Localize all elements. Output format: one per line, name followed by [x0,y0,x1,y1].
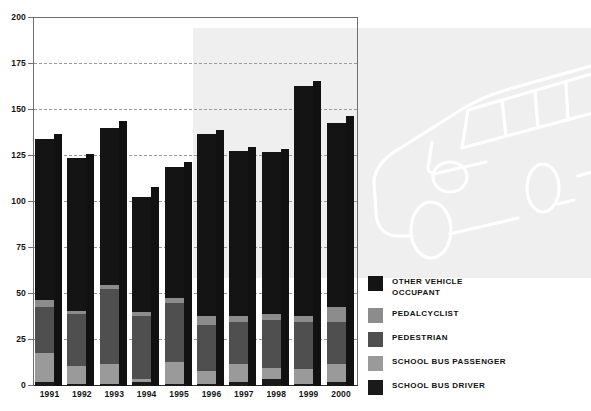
bar-segment [67,314,86,366]
bar-segment [327,382,346,386]
bar-segment [197,384,216,386]
bar-group[interactable] [262,17,294,386]
bar-group[interactable] [35,17,67,386]
legend-item[interactable]: PEDESTRIAN [368,332,448,347]
legend-item[interactable]: SCHOOL BUS PASSENGER [368,356,506,371]
bar-group[interactable] [229,17,261,386]
legend-label: PEDESTRIAN [392,332,448,344]
y-tick-label-200: 200 [0,12,26,22]
bar-segment [67,384,86,386]
total-bar[interactable] [54,134,62,386]
y-tick-label-150: 150 [0,104,26,114]
legend-swatch-icon [368,356,383,371]
bar-segment [327,364,346,382]
bar-segment [262,379,281,386]
bar-group[interactable] [100,17,132,386]
total-bar[interactable] [151,187,159,386]
bar-segment [262,152,281,314]
bar-segment [165,384,184,386]
bar-segment [67,158,86,311]
bar-group[interactable] [132,17,164,386]
bar-segment [229,322,248,364]
stacked-bar[interactable] [35,139,54,386]
y-tick-label-50: 50 [0,288,26,298]
legend-swatch-icon [368,332,383,347]
x-tick-label-1996: 1996 [195,389,228,399]
total-bar[interactable] [346,116,354,386]
stacked-bar[interactable] [327,123,346,386]
bar-segment [327,123,346,307]
bar-group[interactable] [67,17,99,386]
stacked-bar[interactable] [165,167,184,386]
bar-segment [100,384,119,386]
stacked-bar[interactable] [197,134,216,386]
bar-segment [165,167,184,298]
bar-group[interactable] [294,17,326,386]
total-bar[interactable] [184,162,192,386]
legend-swatch-icon [368,308,383,323]
legend-item[interactable]: SCHOOL BUS DRIVER [368,380,485,395]
y-tick-label-100: 100 [0,196,26,206]
stacked-bar[interactable] [100,128,119,386]
bar-segment [327,322,346,364]
x-axis-labels: 1991199219931994199519961997199819992000 [33,389,358,409]
bar-segment [229,364,248,382]
bar-segment [165,362,184,384]
y-tick-label-0: 0 [0,380,26,390]
bar-segment [100,364,119,384]
bar-segment [132,382,151,386]
total-bar[interactable] [119,121,127,386]
bar-segment [100,289,119,364]
stacked-bar[interactable] [229,151,248,386]
bar-group[interactable] [327,17,359,386]
legend-item[interactable]: OTHER VEHICLE OCCUPANT [368,276,463,298]
bar-group[interactable] [165,17,197,386]
stacked-bar[interactable] [67,158,86,386]
x-tick-label-1994: 1994 [130,389,163,399]
x-tick-label-1997: 1997 [227,389,260,399]
bar-segment [229,151,248,317]
total-bar[interactable] [248,147,256,386]
bar-segment [100,128,119,284]
legend-label: PEDALCYCLIST [392,308,459,320]
x-tick-label-1995: 1995 [163,389,196,399]
bar-segment [229,382,248,386]
chart-root: 0255075100125150175200 19911992199319941… [0,0,591,411]
stacked-bar[interactable] [132,197,151,386]
bar-segment [327,307,346,322]
bar-segment [35,307,54,353]
bar-segment [197,134,216,316]
legend-label: SCHOOL BUS PASSENGER [392,356,506,368]
y-axis-labels: 0255075100125150175200 [0,0,28,411]
bar-segment [35,353,54,382]
total-bar[interactable] [281,149,289,386]
total-bar[interactable] [313,81,321,386]
legend-swatch-icon [368,380,383,395]
bar-segment [197,325,216,371]
bar-segment [197,371,216,384]
legend-label: OTHER VEHICLE OCCUPANT [392,276,463,298]
total-bar[interactable] [216,130,224,386]
bar-segment [294,86,313,316]
stacked-bar[interactable] [294,86,313,386]
y-tick-label-25: 25 [0,334,26,344]
bar-segment [132,316,151,379]
x-tick-label-1999: 1999 [292,389,325,399]
x-tick-label-1993: 1993 [98,389,131,399]
bar-group[interactable] [197,17,229,386]
y-tick-label-125: 125 [0,150,26,160]
x-tick-label-1991: 1991 [33,389,66,399]
bar-segment [165,303,184,362]
bar-series-layer [33,17,358,386]
school-bus-illustration [368,36,591,274]
y-tick-label-175: 175 [0,58,26,68]
bar-segment [35,382,54,386]
bar-segment [197,316,216,325]
bar-segment [35,139,54,299]
legend-item[interactable]: PEDALCYCLIST [368,308,459,323]
total-bar[interactable] [86,154,94,386]
x-tick-label-1998: 1998 [260,389,293,399]
stacked-bar[interactable] [262,152,281,386]
bar-segment [67,366,86,384]
x-tick-label-1992: 1992 [65,389,98,399]
